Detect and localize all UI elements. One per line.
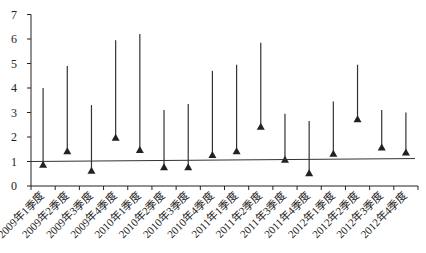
high-low-bar (63, 66, 71, 154)
triangle-marker (184, 163, 192, 170)
chart: 01234567 2009年1季度2009年2季度2009年3季度2009年4季… (0, 0, 426, 253)
triangle-marker (87, 167, 95, 174)
triangle-marker (160, 163, 168, 170)
y-tick-label: 3 (11, 106, 17, 120)
y-tick-label: 7 (11, 8, 17, 22)
high-low-bar (378, 110, 386, 150)
high-low-bar (112, 40, 120, 141)
triangle-marker (305, 169, 313, 176)
y-tick-label: 4 (11, 81, 17, 95)
y-axis: 01234567 (11, 8, 31, 194)
high-low-bar (233, 65, 241, 154)
y-tick-label: 6 (11, 32, 17, 46)
y-tick-label: 2 (11, 130, 17, 144)
high-low-bar (160, 110, 168, 170)
triangle-marker (63, 147, 71, 154)
high-low-bar (257, 43, 265, 130)
high-low-bar (208, 71, 216, 158)
high-low-bar (136, 34, 144, 153)
triangle-marker (378, 144, 386, 151)
triangle-marker (402, 148, 410, 155)
high-low-series (39, 34, 410, 176)
high-low-bar (402, 113, 410, 156)
high-low-bar (354, 65, 362, 123)
triangle-marker (136, 146, 144, 153)
high-low-bar (305, 121, 313, 176)
triangle-marker (257, 123, 265, 130)
y-tick-label: 0 (11, 179, 17, 193)
y-tick-label: 5 (11, 57, 17, 71)
reference-line (30, 159, 415, 162)
triangle-marker (208, 151, 216, 158)
triangle-marker (112, 134, 120, 141)
reference-line-path (30, 159, 415, 162)
x-axis: 2009年1季度2009年2季度2009年3季度2009年4季度2010年1季度… (0, 186, 418, 240)
y-tick-label: 1 (11, 155, 17, 169)
triangle-marker (354, 115, 362, 122)
high-low-bar (281, 114, 289, 163)
high-low-bar (329, 101, 337, 156)
high-low-bar (87, 105, 95, 174)
high-low-bar (39, 88, 47, 168)
triangle-marker (233, 147, 241, 154)
triangle-marker (329, 150, 337, 157)
